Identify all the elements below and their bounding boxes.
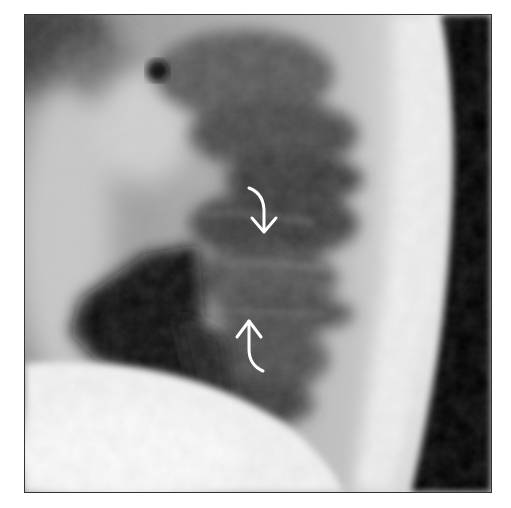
curved-arrow-down-icon bbox=[235, 180, 285, 240]
curved-arrow-up-icon bbox=[225, 315, 275, 375]
xray-radiograph bbox=[25, 15, 491, 492]
xray-image bbox=[24, 14, 492, 493]
